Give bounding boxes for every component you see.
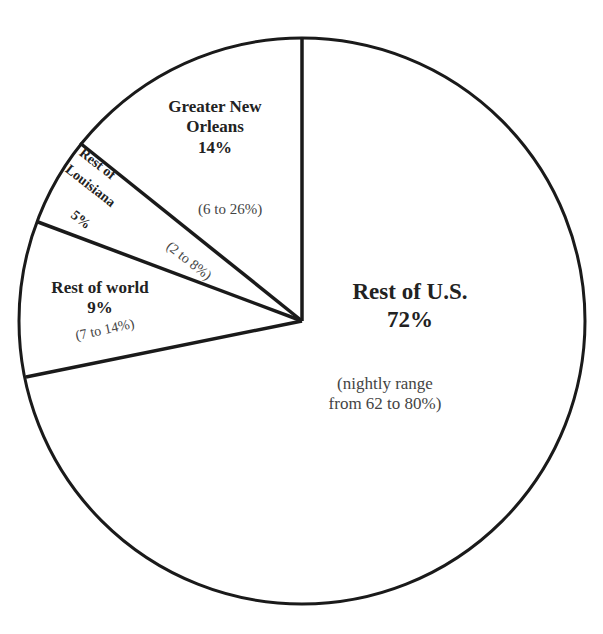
gno-range: (6 to 26%)	[198, 200, 262, 218]
row-name: Rest of world	[20, 278, 180, 298]
us-value: 72%	[330, 306, 490, 334]
slice-label-gno: Greater New Orleans 14%	[140, 97, 290, 158]
gno-value: 14%	[140, 138, 290, 158]
gno-name-line2: Orleans	[140, 117, 290, 137]
us-range-line1: (nightly range	[300, 374, 470, 394]
us-name: Rest of U.S.	[330, 278, 490, 306]
gno-name-line1: Greater New	[140, 97, 290, 117]
us-range: (nightly range from 62 to 80%)	[300, 374, 470, 415]
us-range-line2: from 62 to 80%)	[300, 394, 470, 414]
row-value: 9%	[20, 298, 180, 318]
slice-label-us: Rest of U.S. 72%	[330, 278, 490, 333]
slice-label-row: Rest of world 9%	[20, 278, 180, 319]
